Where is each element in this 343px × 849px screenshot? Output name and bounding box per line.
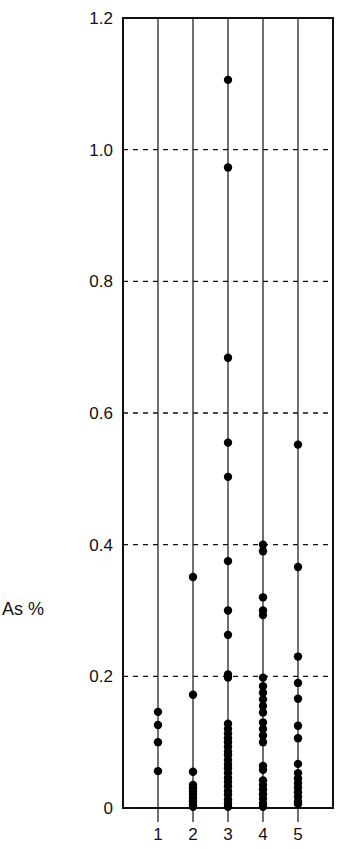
data-point xyxy=(224,631,232,639)
data-point xyxy=(294,440,302,448)
y-tick-label: 1.0 xyxy=(89,141,113,160)
data-point xyxy=(224,473,232,481)
x-tick-label: 3 xyxy=(223,825,232,844)
data-point xyxy=(154,721,162,729)
data-point xyxy=(294,695,302,703)
y-axis-ticks: 00.20.40.60.81.01.2 xyxy=(89,9,113,818)
data-point xyxy=(259,766,267,774)
data-point xyxy=(224,354,232,362)
data-point xyxy=(189,691,197,699)
data-point xyxy=(224,76,232,84)
data-point xyxy=(224,557,232,565)
data-point xyxy=(224,606,232,614)
data-point xyxy=(224,802,232,810)
scatter-chart: 00.20.40.60.81.01.2 12345 As % xyxy=(0,0,343,849)
y-tick-label: 0.2 xyxy=(89,667,113,686)
data-point xyxy=(294,760,302,768)
data-point xyxy=(154,708,162,716)
data-point xyxy=(154,738,162,746)
y-axis-title: As % xyxy=(2,599,44,619)
data-point xyxy=(154,767,162,775)
category-lines xyxy=(158,18,298,822)
y-tick-label: 0.8 xyxy=(89,272,113,291)
x-tick-label: 2 xyxy=(188,825,197,844)
x-tick-label: 5 xyxy=(293,825,302,844)
y-tick-label: 0.4 xyxy=(89,536,113,555)
data-point xyxy=(259,547,267,555)
x-axis-ticks: 12345 xyxy=(153,825,302,844)
data-point xyxy=(294,679,302,687)
y-tick-label: 1.2 xyxy=(89,9,113,28)
data-point xyxy=(259,673,267,681)
y-tick-label: 0 xyxy=(104,799,113,818)
x-tick-label: 1 xyxy=(153,825,162,844)
data-point xyxy=(224,163,232,171)
data-point xyxy=(294,722,302,730)
data-point xyxy=(259,738,267,746)
data-point xyxy=(224,673,232,681)
data-point xyxy=(259,593,267,601)
data-point xyxy=(294,734,302,742)
data-point xyxy=(259,611,267,619)
data-point xyxy=(189,573,197,581)
data-point xyxy=(189,802,197,810)
y-tick-label: 0.6 xyxy=(89,404,113,423)
data-point xyxy=(259,708,267,716)
data-point xyxy=(294,800,302,808)
data-point xyxy=(294,652,302,660)
data-point xyxy=(224,438,232,446)
data-point xyxy=(259,802,267,810)
x-tick-label: 4 xyxy=(258,825,267,844)
data-point xyxy=(189,768,197,776)
data-point xyxy=(294,563,302,571)
